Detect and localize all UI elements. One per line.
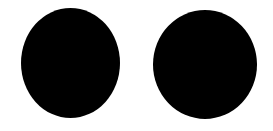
right-circle-shape (153, 10, 257, 119)
left-circle-shape (21, 8, 120, 118)
image-canvas (0, 0, 273, 131)
shape-layer (0, 0, 273, 131)
